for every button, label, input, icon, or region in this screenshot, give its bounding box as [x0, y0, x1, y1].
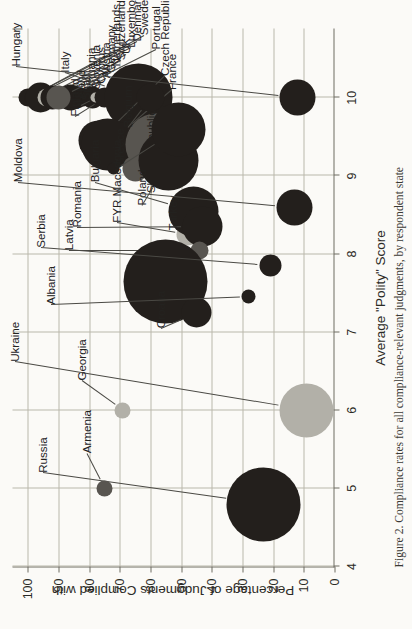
y-axis-tick: [211, 566, 212, 572]
y-axis-title: Percentage of Judgments Complied with: [12, 583, 334, 598]
x-axis-tick: [333, 174, 339, 175]
point-label: Croatia: [154, 290, 167, 327]
label-leader-line: [14, 361, 278, 406]
bubble-armenia[interactable]: [96, 480, 112, 496]
point-label: Russia: [36, 437, 49, 472]
point-label: FYR Macedonia: [110, 139, 123, 222]
point-label: Armenia: [80, 410, 93, 453]
point-label: Albania: [44, 266, 57, 305]
x-axis-title: Average "Polity" Score: [372, 28, 387, 567]
point-label: France: [165, 53, 178, 89]
figure-caption: Figure 2. Compliance rates for all compl…: [392, 7, 405, 567]
y-axis-tick: [150, 566, 151, 572]
rotated-figure-container: 456789100102030405060708090100SwedenDenm…: [0, 0, 412, 629]
point-label: Moldova: [11, 138, 24, 182]
point-label: Ukraine: [8, 321, 21, 361]
x-axis-tick-label: 10: [344, 90, 358, 104]
y-axis-tick: [89, 566, 90, 572]
point-label: Georgia: [75, 339, 88, 380]
x-axis-tick: [333, 331, 339, 332]
bubble-moldova[interactable]: [276, 189, 312, 225]
point-label: Bulgaria: [88, 139, 101, 182]
x-axis-tick: [333, 96, 339, 97]
bubble-portugal[interactable]: [46, 85, 70, 109]
bubble-albania[interactable]: [241, 290, 255, 304]
point-label: Latvia: [62, 219, 75, 250]
label-leader-line: [81, 380, 115, 405]
y-axis-tick: [181, 566, 182, 572]
x-axis-tick-label: 6: [344, 406, 358, 413]
point-label: Serbia: [34, 214, 47, 248]
x-axis-tick: [333, 253, 339, 254]
plot-area: 456789100102030405060708090100SwedenDenm…: [12, 28, 334, 567]
bubble-greece[interactable]: [151, 102, 205, 156]
scanned-page: 456789100102030405060708090100SwedenDenm…: [0, 0, 412, 629]
point-label: Hungary: [9, 22, 22, 66]
bubble-serbia[interactable]: [259, 254, 281, 276]
bubble-georgia[interactable]: [114, 402, 130, 418]
bubble-russia[interactable]: [226, 467, 300, 541]
bubble-romania[interactable]: [182, 206, 222, 246]
y-axis-tick: [303, 566, 304, 572]
y-axis-tick: [58, 566, 59, 572]
x-axis-tick-label: 9: [344, 172, 358, 179]
x-axis-tick-label: 5: [344, 484, 358, 491]
point-label: Italy: [58, 51, 71, 72]
bubble-hungary[interactable]: [279, 79, 315, 115]
y-axis-tick: [242, 566, 243, 572]
x-gridline: [12, 331, 333, 332]
y-axis-tick: [27, 566, 28, 572]
label-leader-line: [76, 226, 180, 228]
point-label: Turkey: [166, 195, 179, 230]
figure: 456789100102030405060708090100SwedenDenm…: [0, 0, 412, 629]
label-leader-line: [42, 472, 225, 499]
y-axis-tick: [273, 566, 274, 572]
x-gridline: [12, 565, 333, 566]
x-axis-tick-label: 8: [344, 250, 358, 257]
bubble-ukraine[interactable]: [279, 383, 333, 437]
x-axis-tick-label: 7: [344, 328, 358, 335]
bubble-croatia[interactable]: [181, 297, 211, 327]
y-axis-tick: [119, 566, 120, 572]
x-axis-tick-label: 4: [344, 563, 358, 570]
y-gridline: [89, 28, 90, 566]
x-axis-tick: [333, 409, 339, 410]
x-axis-tick: [333, 487, 339, 488]
y-gridline: [27, 28, 28, 566]
bubble-belgium[interactable]: [136, 83, 164, 111]
y-axis-tick: [334, 566, 335, 572]
